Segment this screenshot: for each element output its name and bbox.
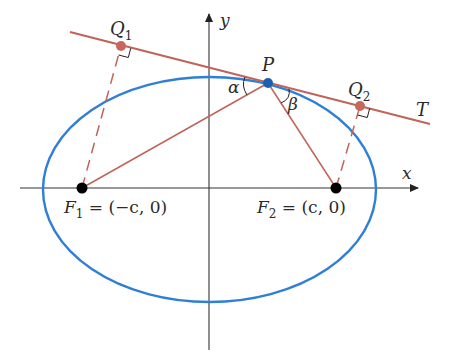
label-q2: Q2: [348, 79, 370, 104]
label-f2: F2 = (c, 0): [256, 197, 346, 221]
focus-f2: [331, 183, 342, 194]
label-f1: F1 = (−c, 0): [63, 197, 167, 221]
label-p: P: [261, 54, 275, 75]
point-p: [263, 78, 273, 88]
label-beta: β: [287, 94, 298, 114]
label-tangent-t: T: [416, 99, 430, 120]
label-q1: Q1: [110, 18, 132, 43]
ellipse-reflection-diagram: y x P Q1 Q2 T α β F1 = (−c, 0) F2 = (c, …: [0, 0, 452, 359]
y-axis-label: y: [219, 10, 230, 30]
focus-f1: [77, 183, 88, 194]
perpendicular-f1-q1: [82, 46, 121, 188]
label-alpha: α: [228, 77, 240, 97]
focal-radius-f2-p: [268, 83, 336, 188]
x-axis-label: x: [402, 163, 412, 183]
